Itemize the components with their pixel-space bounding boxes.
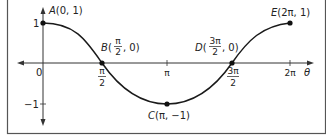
svg-text:, 0): , 0) bbox=[123, 42, 140, 53]
y-axis-down-arrow-icon bbox=[41, 119, 46, 126]
label-c-text: C(π, −1) bbox=[148, 110, 190, 121]
point-b bbox=[99, 60, 104, 65]
x-tick-0: 0 bbox=[36, 67, 42, 78]
label-d: D( 3π 2 , 0) bbox=[195, 36, 239, 57]
x-tick-two-pi: 2π bbox=[284, 68, 296, 78]
point-c bbox=[164, 101, 169, 106]
x-tick-pi: π bbox=[164, 68, 170, 78]
y-tick-neg1: −1 bbox=[24, 99, 39, 110]
cosine-graph: A(0, 1) B( π 2 , 0) C(π, −1) D( 3π 2 , 0… bbox=[0, 0, 326, 137]
y-tick-1: 1 bbox=[33, 18, 39, 29]
x-tick-half-pi: π 2 bbox=[98, 66, 106, 88]
point-e bbox=[287, 20, 292, 25]
label-e: E(2π, 1) bbox=[271, 7, 310, 18]
svg-text:2: 2 bbox=[212, 47, 218, 57]
x-tick-three-half-pi: 3π 2 bbox=[227, 66, 239, 88]
x-axis bbox=[17, 60, 314, 66]
x-axis-title-theta: θ bbox=[304, 67, 310, 78]
label-b: B( π 2 , 0) bbox=[101, 36, 140, 57]
svg-text:π: π bbox=[115, 36, 121, 46]
svg-text:3π: 3π bbox=[209, 36, 221, 46]
svg-text:3π: 3π bbox=[227, 66, 239, 76]
x-axis-right-arrow-icon bbox=[307, 61, 314, 66]
svg-text:2: 2 bbox=[99, 78, 105, 88]
label-a: A(0, 1) bbox=[48, 5, 83, 16]
svg-text:2: 2 bbox=[230, 78, 236, 88]
y-axis-up-arrow-icon bbox=[41, 7, 46, 14]
point-a bbox=[40, 20, 45, 25]
svg-text:π: π bbox=[99, 66, 105, 76]
svg-text:, 0): , 0) bbox=[222, 42, 239, 53]
svg-text:2: 2 bbox=[115, 47, 121, 57]
point-d bbox=[229, 60, 234, 65]
svg-text:D(: D( bbox=[195, 42, 207, 53]
svg-text:B(: B( bbox=[101, 42, 112, 53]
x-axis-left-arrow-icon bbox=[17, 61, 24, 66]
